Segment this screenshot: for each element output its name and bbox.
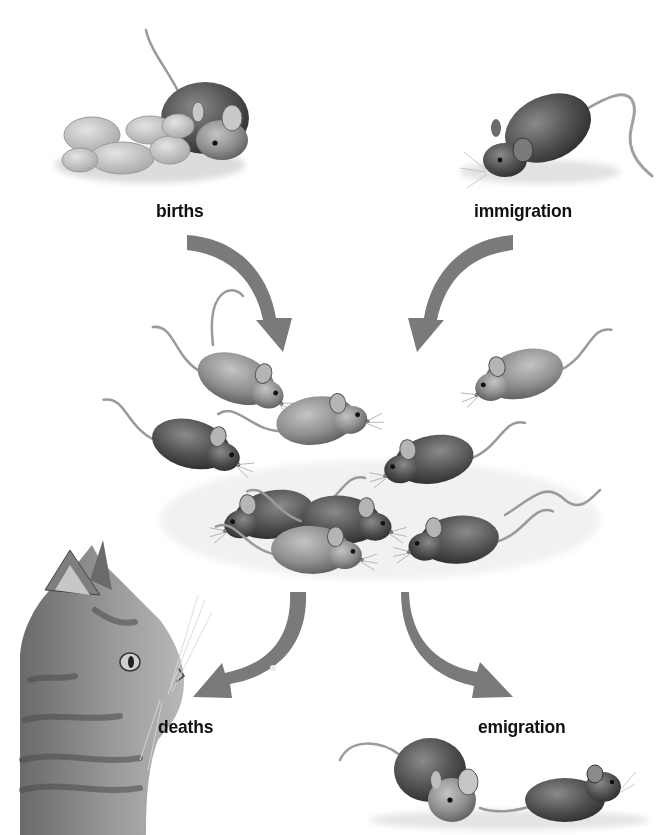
mouse-population-cluster [92, 290, 623, 580]
arrow-highlight-dot [270, 665, 276, 671]
immigration-illustration [460, 80, 652, 188]
deaths-illustration-cat [20, 540, 212, 835]
diagram-artwork [0, 0, 656, 835]
emigration-label: emigration [478, 716, 566, 738]
immigration-label: immigration [474, 200, 572, 222]
deaths-label: deaths [158, 716, 213, 738]
births-label: births [156, 200, 203, 222]
population-diagram: births immigration deaths emigration [0, 0, 656, 835]
emigration-illustration [340, 738, 650, 830]
deaths-arrow [193, 592, 306, 698]
births-illustration [55, 30, 249, 183]
immigration-arrow [408, 235, 513, 352]
emigration-arrow [401, 592, 513, 698]
